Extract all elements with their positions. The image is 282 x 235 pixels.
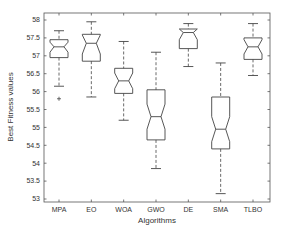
- x-tick-label: WOA: [115, 206, 132, 213]
- notched-box: [147, 90, 165, 140]
- x-axis: MPAEOWOAGWODESMATLBO: [52, 13, 263, 213]
- y-tick-label: 53.5: [26, 177, 40, 184]
- box-de: [179, 24, 197, 67]
- plot-border: [44, 13, 270, 202]
- box-eo: [82, 22, 100, 97]
- x-tick-label: EO: [86, 206, 97, 213]
- box-sma: [212, 63, 230, 194]
- x-tick-label: MPA: [52, 206, 67, 213]
- notched-box: [244, 38, 262, 60]
- y-tick-label: 55: [32, 124, 40, 131]
- y-tick-label: 56: [32, 88, 40, 95]
- x-tick-label: GWO: [147, 206, 165, 213]
- notched-box: [82, 34, 100, 61]
- x-tick-label: TLBO: [244, 206, 263, 213]
- chart-canvas: 5353.55454.55555.55656.55757.558 MPAEOWO…: [0, 0, 282, 235]
- box-mpa: [50, 31, 68, 101]
- y-tick-label: 57: [32, 52, 40, 59]
- x-axis-label: Algorithms: [138, 216, 176, 225]
- y-tick-label: 56.5: [26, 70, 40, 77]
- boxes: [50, 22, 262, 194]
- y-tick-label: 54.5: [26, 142, 40, 149]
- box-woa: [115, 41, 133, 120]
- notched-box: [50, 40, 68, 58]
- plot-frame: [44, 13, 270, 202]
- x-tick-label: DE: [183, 206, 193, 213]
- y-axis-label: Best Fitness values: [6, 72, 15, 141]
- y-tick-label: 54: [32, 160, 40, 167]
- notched-box: [179, 29, 197, 49]
- x-tick-label: SMA: [213, 206, 229, 213]
- y-tick-label: 58: [32, 16, 40, 23]
- box-tlbo: [244, 24, 262, 76]
- y-tick-label: 55.5: [26, 106, 40, 113]
- y-tick-label: 53: [32, 195, 40, 202]
- notched-box: [212, 97, 230, 149]
- y-tick-label: 57.5: [26, 34, 40, 41]
- boxplot-chart: 5353.55454.55555.55656.55757.558 MPAEOWO…: [0, 0, 282, 235]
- box-gwo: [147, 52, 165, 168]
